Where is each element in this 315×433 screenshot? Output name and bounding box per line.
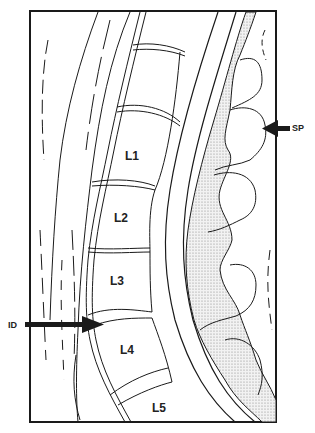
stippled-region	[186, 12, 276, 422]
label-sp: SP	[292, 123, 304, 133]
vertebral-bodies	[88, 44, 185, 405]
label-id: ID	[8, 320, 18, 330]
label-l2: L2	[114, 211, 128, 225]
spine-diagram: ID SP L1 L2 L3 L4 L5	[0, 0, 315, 433]
sp-arrow	[262, 120, 290, 137]
label-l4: L4	[120, 343, 134, 357]
id-arrow	[25, 316, 104, 333]
label-l5: L5	[152, 401, 166, 415]
label-l3: L3	[110, 274, 124, 288]
label-l1: L1	[125, 149, 139, 163]
